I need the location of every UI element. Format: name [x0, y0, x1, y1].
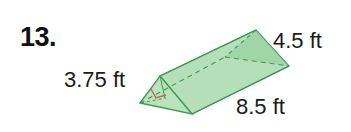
length-label: 8.5 ft: [236, 94, 285, 120]
triangular-prism-figure: [0, 0, 351, 132]
base-label: 4.5 ft: [273, 28, 322, 54]
height-label: 3.75 ft: [64, 67, 125, 93]
